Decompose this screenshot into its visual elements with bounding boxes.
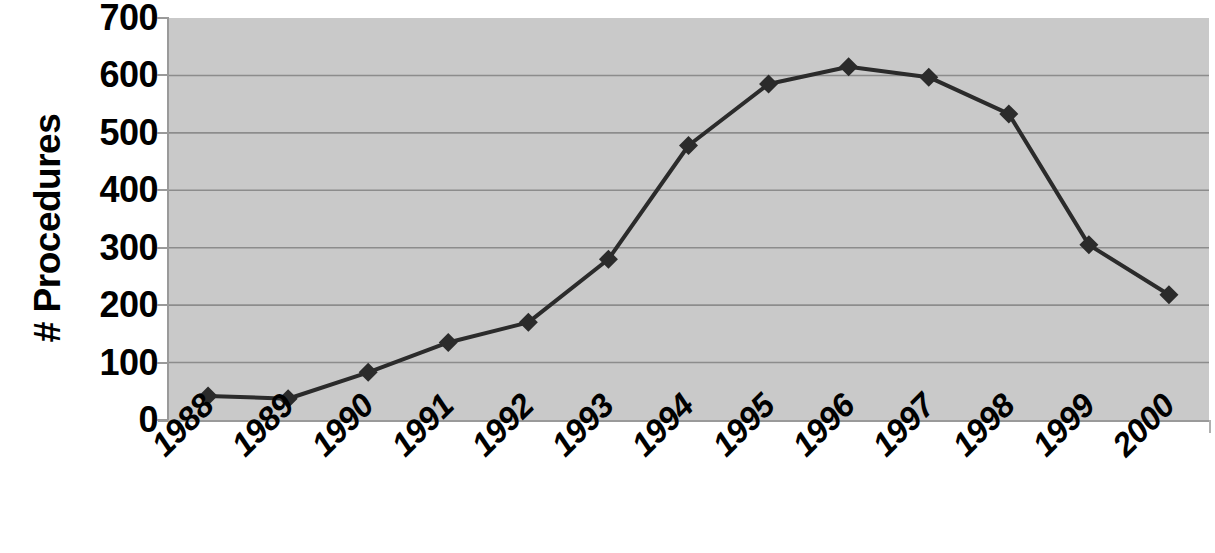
x-axis-tick-mark	[1209, 420, 1211, 433]
y-axis-tick-label: 700	[38, 0, 158, 38]
y-axis-tick-label: 0	[38, 400, 158, 440]
y-axis-tick-label: 300	[38, 228, 158, 268]
data-point-marker	[919, 68, 938, 87]
data-point-marker	[1159, 285, 1178, 304]
y-axis-tick-label: 600	[38, 55, 158, 95]
data-point-marker	[999, 104, 1018, 123]
gridlines	[168, 75, 1209, 362]
y-axis-tick-label: 200	[38, 285, 158, 325]
y-axis-line	[167, 18, 169, 421]
data-point-marker	[1079, 235, 1098, 254]
y-axis-tick-label: 100	[38, 343, 158, 383]
data-series-line	[208, 67, 1169, 399]
y-axis-tick-label: 400	[38, 170, 158, 210]
series-polyline	[208, 67, 1169, 399]
data-point-marker	[839, 57, 858, 76]
y-axis-tick-label: 500	[38, 113, 158, 153]
data-point-marker	[439, 333, 458, 352]
